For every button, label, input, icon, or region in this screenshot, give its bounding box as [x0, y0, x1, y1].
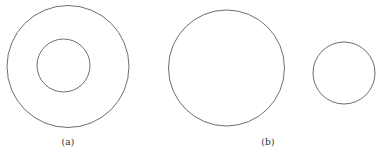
- outer-circle-a: [7, 6, 129, 128]
- small-circle-b: [313, 42, 375, 104]
- panel-b-shapes: [169, 10, 376, 126]
- large-circle-b: [169, 10, 285, 126]
- figure-canvas: [0, 0, 378, 159]
- inner-circle-a: [37, 39, 90, 92]
- figure-container: (a) (b): [0, 0, 378, 159]
- panel-a-shapes: [7, 6, 129, 128]
- panel-a-label: (a): [62, 138, 75, 147]
- panel-b-label: (b): [261, 138, 274, 147]
